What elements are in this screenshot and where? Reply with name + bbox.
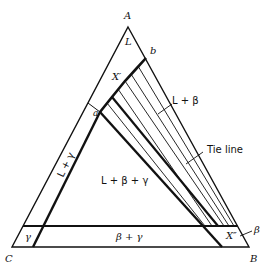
- vertex-a-label: A: [123, 10, 131, 21]
- region-beta-label: β: [253, 224, 260, 235]
- vertex-b-label: B: [249, 253, 257, 264]
- tie-line: [107, 103, 205, 226]
- region-beta-gamma-label: β + γ: [115, 231, 143, 242]
- region-l-beta-gamma-label: L + β + γ: [101, 175, 148, 186]
- region-gamma-label: γ: [25, 231, 31, 242]
- region-l-label: L: [124, 36, 132, 47]
- triangle-outline: [12, 27, 249, 247]
- point-b-label: b: [150, 45, 156, 56]
- point-a-label: a: [93, 108, 98, 118]
- point-x-prime-label: X′: [111, 71, 122, 82]
- vertex-c-label: C: [5, 253, 13, 264]
- tie-line-label: Tie line: [206, 144, 243, 155]
- region-l-beta-label: L + β: [172, 95, 199, 106]
- point-x-double-prime-label: X″: [225, 230, 237, 241]
- l-beta-pointer: [158, 104, 172, 114]
- ternary-phase-diagram: A B C L b X′ a L + β Tie line L + β + γ …: [0, 0, 268, 271]
